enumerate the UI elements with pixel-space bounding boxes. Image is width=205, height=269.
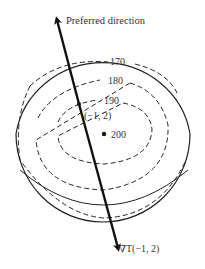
peak-dot <box>102 132 106 136</box>
peak-label: 200 <box>111 129 126 140</box>
hill-outline <box>16 63 190 222</box>
preferred-direction-label: Preferred direction <box>66 15 146 26</box>
hill-contour-diagram: Preferred direction 170 180 190 (−1, 2) … <box>0 0 205 269</box>
gradient-arrow <box>57 20 79 104</box>
gradient-arrow-lower <box>79 104 118 248</box>
gradient-label: ∇T(−1, 2) <box>119 243 159 255</box>
point-label: (−1, 2) <box>84 110 111 122</box>
contour-label-170: 170 <box>110 56 125 67</box>
contour-label-180: 180 <box>108 75 123 86</box>
contour-180 <box>36 80 168 190</box>
point-dot <box>77 102 81 106</box>
contour-label-190: 190 <box>104 95 119 106</box>
